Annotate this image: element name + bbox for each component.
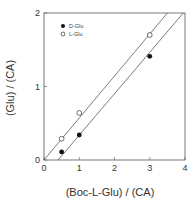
legend-marker-l-glu <box>61 32 65 36</box>
data-point-d-glu <box>147 54 152 59</box>
x-tick-label: 3 <box>147 163 152 173</box>
data-point-d-glu <box>59 150 64 155</box>
chart: 01234012 D-Glu L-Glu (Glu) / (CA) (Boc-L… <box>0 0 196 206</box>
x-axis-label: (Boc-L-Glu) / (CA) <box>66 186 155 198</box>
legend: D-Glu L-Glu <box>61 23 83 37</box>
data-point-d-glu <box>77 133 82 138</box>
x-tick-label: 2 <box>112 163 117 173</box>
x-tick-label: 4 <box>182 163 187 173</box>
axis-ticks: 01234012 <box>35 8 188 173</box>
legend-label-d-glu: D-Glu <box>69 23 83 29</box>
y-tick-label: 0 <box>35 155 40 165</box>
y-axis-label: (Glu) / (CA) <box>4 60 16 116</box>
legend-marker-d-glu <box>61 24 65 28</box>
x-tick-label: 1 <box>77 163 82 173</box>
data-point-l-glu <box>147 33 152 38</box>
data-point-l-glu <box>77 111 82 116</box>
data-points <box>59 33 152 155</box>
x-tick-label: 0 <box>41 163 46 173</box>
legend-label-l-glu: L-Glu <box>69 31 82 37</box>
data-point-l-glu <box>59 136 64 141</box>
y-tick-label: 2 <box>35 8 40 18</box>
plot-frame <box>44 13 185 160</box>
y-tick-label: 1 <box>35 82 40 92</box>
